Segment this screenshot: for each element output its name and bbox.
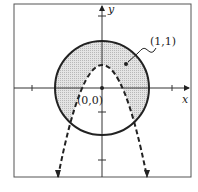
x-axis-label: x: [182, 93, 189, 106]
y-axis-label: y: [107, 3, 115, 16]
origin-point: [100, 86, 104, 90]
test-point: [124, 62, 128, 66]
region-diagram: y x (0,0) (1,1): [0, 0, 198, 192]
origin-label: (0,0): [77, 94, 103, 107]
point-label: (1,1): [150, 35, 176, 48]
